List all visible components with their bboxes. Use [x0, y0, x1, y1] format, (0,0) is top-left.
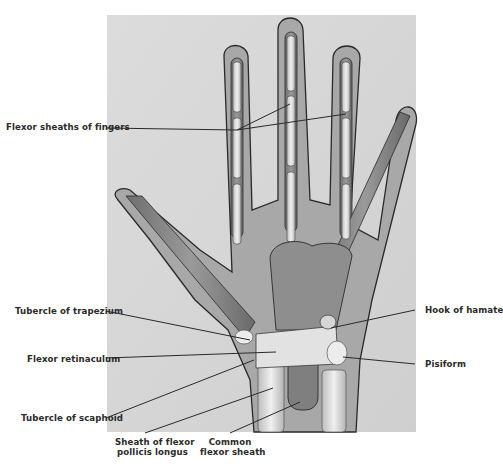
- label-sheath-of-flexor-pollicis-longus: Sheath of flexor pollicis longus: [115, 437, 190, 457]
- label-line-1: Common: [200, 437, 260, 447]
- label-flexor-sheaths-of-fingers: Flexor sheaths of fingers: [6, 122, 130, 132]
- label-tubercle-of-trapezium: Tubercle of trapezium: [15, 306, 123, 316]
- label-line-2: flexor sheath: [200, 447, 260, 457]
- label-flexor-retinaculum: Flexor retinaculum: [27, 354, 120, 364]
- trapezium-bone: [235, 330, 253, 344]
- label-line-1: Sheath of flexor: [115, 437, 190, 447]
- label-common-flexor-sheath: Common flexor sheath: [200, 437, 260, 457]
- label-line-2: pollicis longus: [115, 447, 190, 457]
- label-hook-of-hamate: Hook of hamate: [425, 305, 503, 315]
- label-pisiform: Pisiform: [425, 359, 466, 369]
- label-tubercle-of-scaphoid: Tubercle of scaphoid: [21, 413, 123, 423]
- hamate-bone: [320, 315, 336, 329]
- pisiform-bone: [327, 341, 347, 365]
